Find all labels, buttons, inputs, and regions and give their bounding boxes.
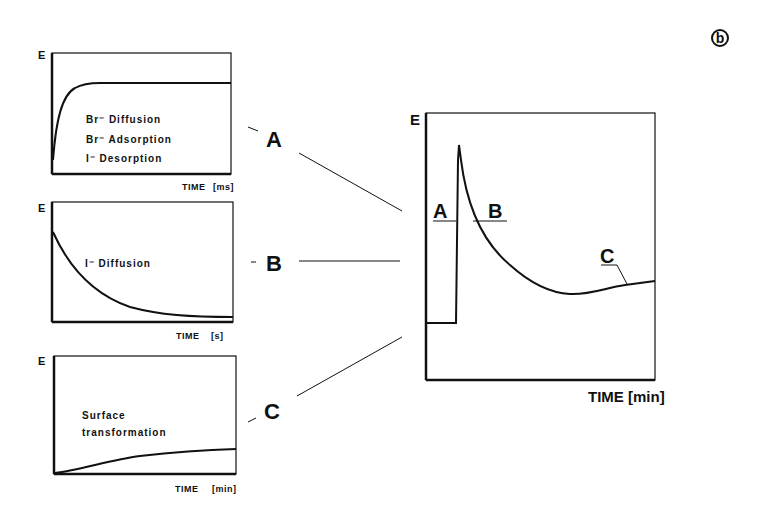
note: Surface [82,410,126,421]
region-label-c: C [600,245,614,267]
x-axis-label-bold: TIME [182,182,206,192]
connector-label-c: C [264,399,280,424]
connector-label-b: B [266,251,282,276]
main-plot: E A B C TIME [min] [410,111,665,405]
region-label-a: A [433,200,447,222]
panel-b: E I⁻ Diffusion TIME [s] [38,202,233,341]
x-axis-label-unit: [s] [211,331,224,341]
panel-c: E Surface transformation TIME [min] [38,355,237,494]
note: transformation [82,427,167,438]
x-axis-label-unit: [ms] [213,182,234,192]
x-axis-label: TIME [min] [588,388,665,405]
panel-tag: b [712,30,728,46]
curve-b [53,232,233,317]
main-curve [427,145,655,323]
figure-canvas: b E Br⁻ Diffusion Br⁻ Adsorption I⁻ Deso… [0,0,775,517]
note: I⁻ Desorption [86,153,162,164]
region-label-b: B [488,200,502,222]
x-axis-label-bold: TIME [176,331,200,341]
curve-c [55,449,236,473]
y-axis-label: E [410,111,420,128]
connector-label-a: A [266,127,282,152]
svg-text:b: b [716,30,725,46]
panel-a: E Br⁻ Diffusion Br⁻ Adsorption I⁻ Desorp… [38,49,234,192]
connectors: A B C [248,127,402,424]
y-axis-label: E [38,202,45,214]
y-axis-label: E [38,355,45,367]
note: Br⁻ Adsorption [86,134,172,145]
x-axis-label-bold: TIME [175,484,199,494]
x-axis-label-unit: [min] [212,484,237,494]
note: Br⁻ Diffusion [86,114,161,125]
note: I⁻ Diffusion [85,258,151,269]
y-axis-label: E [38,49,45,61]
